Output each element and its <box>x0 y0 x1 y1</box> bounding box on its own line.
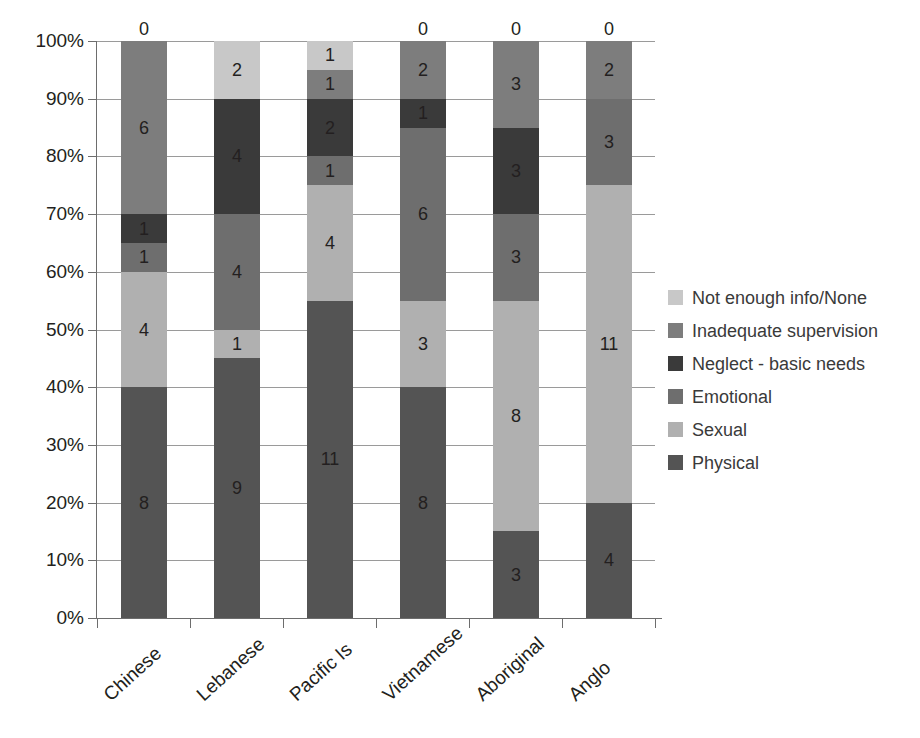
segment-value-label: 3 <box>511 162 521 180</box>
gridline <box>97 503 655 504</box>
bar-segment[interactable]: 8 <box>121 387 167 618</box>
bar-segment[interactable]: 6 <box>121 41 167 214</box>
y-tick-mark <box>88 445 96 446</box>
bar-segment[interactable]: 8 <box>493 301 539 532</box>
bar-segment[interactable]: 9 <box>214 358 260 618</box>
bar-segment[interactable]: 6 <box>400 128 446 301</box>
legend-item[interactable]: Neglect - basic needs <box>668 347 912 380</box>
bar-segment[interactable]: 4 <box>214 214 260 329</box>
bar-chinese[interactable]: 841160 <box>121 41 167 618</box>
bar-lebanese[interactable]: 914402 <box>214 41 260 618</box>
bar-segment[interactable]: 11 <box>586 185 632 502</box>
x-tick-mark <box>655 619 656 628</box>
bar-segment[interactable]: 2 <box>307 99 353 157</box>
bar-segment[interactable]: 1 <box>307 70 353 99</box>
y-tick-label: 30% <box>4 435 84 454</box>
segment-value-label: 0 <box>604 20 614 38</box>
y-tick-label: 70% <box>4 204 84 223</box>
bar-segment[interactable]: 1 <box>307 156 353 185</box>
bar-segment[interactable]: 1 <box>121 243 167 272</box>
bar-segment[interactable]: 4 <box>586 503 632 618</box>
segment-value-label: 2 <box>232 61 242 79</box>
legend-swatch-icon <box>668 290 683 305</box>
legend-item[interactable]: Emotional <box>668 380 912 413</box>
y-tick-label: 40% <box>4 377 84 396</box>
bar-segment[interactable]: 3 <box>586 99 632 186</box>
y-tick-mark <box>88 41 96 42</box>
gridline <box>97 445 655 446</box>
legend-swatch-icon <box>668 455 683 470</box>
segment-value-label: 3 <box>511 75 521 93</box>
bar-segment[interactable]: 8 <box>400 387 446 618</box>
segment-value-label: 0 <box>418 20 428 38</box>
segment-value-label: 4 <box>325 234 335 252</box>
segment-value-label: 2 <box>604 61 614 79</box>
y-tick-mark <box>88 99 96 100</box>
segment-value-label: 1 <box>418 104 428 122</box>
legend-item[interactable]: Inadequate supervision <box>668 314 912 347</box>
bar-vietnamese[interactable]: 836120 <box>400 41 446 618</box>
bar-segment[interactable]: 2 <box>214 41 260 99</box>
bar-aboriginal[interactable]: 383330 <box>493 41 539 618</box>
y-tick-label: 10% <box>4 550 84 569</box>
segment-value-label: 3 <box>418 335 428 353</box>
segment-value-label: 1 <box>232 335 242 353</box>
y-tick-mark <box>88 156 96 157</box>
segment-value-label: 8 <box>139 494 149 512</box>
legend-item[interactable]: Physical <box>668 446 912 479</box>
bar-segment[interactable]: 3 <box>493 128 539 215</box>
legend-swatch-icon <box>668 389 683 404</box>
bar-anglo[interactable]: 4113020 <box>586 41 632 618</box>
bar-segment[interactable]: 2 <box>400 41 446 99</box>
bar-segment[interactable]: 4 <box>121 272 167 387</box>
legend-label: Sexual <box>692 421 747 439</box>
gridline <box>97 41 655 42</box>
y-tick-label: 0% <box>4 608 84 627</box>
segment-value-label: 1 <box>139 220 149 238</box>
bar-segment[interactable]: 1 <box>400 99 446 128</box>
y-tick-label: 50% <box>4 320 84 339</box>
legend-item[interactable]: Sexual <box>668 413 912 446</box>
bar-segment[interactable]: 2 <box>586 41 632 99</box>
segment-value-label: 1 <box>139 248 149 266</box>
x-tick-label: Vietnamese <box>379 623 466 704</box>
segment-value-label: 9 <box>232 479 242 497</box>
segment-value-label: 0 <box>139 20 149 38</box>
legend-label: Neglect - basic needs <box>692 355 865 373</box>
bar-segment[interactable]: 3 <box>493 531 539 618</box>
segment-value-label: 1 <box>325 162 335 180</box>
x-tick-mark <box>190 619 191 628</box>
bar-segment[interactable]: 11 <box>307 301 353 618</box>
x-tick-mark <box>562 619 563 628</box>
bar-segment[interactable]: 3 <box>493 41 539 128</box>
segment-value-label: 4 <box>232 263 242 281</box>
gridline <box>97 99 655 100</box>
y-tick-mark <box>88 330 96 331</box>
x-tick-label: Chinese <box>100 643 165 704</box>
legend: Not enough info/NoneInadequate supervisi… <box>668 281 912 479</box>
gridline <box>97 214 655 215</box>
x-tick-mark <box>283 619 284 628</box>
segment-value-label: 2 <box>418 61 428 79</box>
legend-label: Emotional <box>692 388 772 406</box>
segment-value-label: 1 <box>325 46 335 64</box>
legend-item[interactable]: Not enough info/None <box>668 281 912 314</box>
bar-pacific-is[interactable]: 1141211 <box>307 41 353 618</box>
gridline <box>97 156 655 157</box>
y-tick-label: 60% <box>4 262 84 281</box>
bar-segment[interactable]: 1 <box>121 214 167 243</box>
y-tick-mark <box>88 618 96 619</box>
x-tick-label: Aboriginal <box>472 633 548 704</box>
x-tick-mark <box>376 619 377 628</box>
bar-segment[interactable]: 1 <box>214 330 260 359</box>
gridline <box>97 387 655 388</box>
bar-segment[interactable]: 4 <box>214 99 260 214</box>
segment-value-label: 4 <box>139 321 149 339</box>
bar-segment[interactable]: 1 <box>307 41 353 70</box>
bar-segment[interactable]: 4 <box>307 185 353 300</box>
x-tick-label: Pacific Is <box>286 639 355 704</box>
legend-swatch-icon <box>668 422 683 437</box>
legend-label: Inadequate supervision <box>692 322 878 340</box>
bar-segment[interactable]: 3 <box>400 301 446 388</box>
bar-segment[interactable]: 3 <box>493 214 539 301</box>
